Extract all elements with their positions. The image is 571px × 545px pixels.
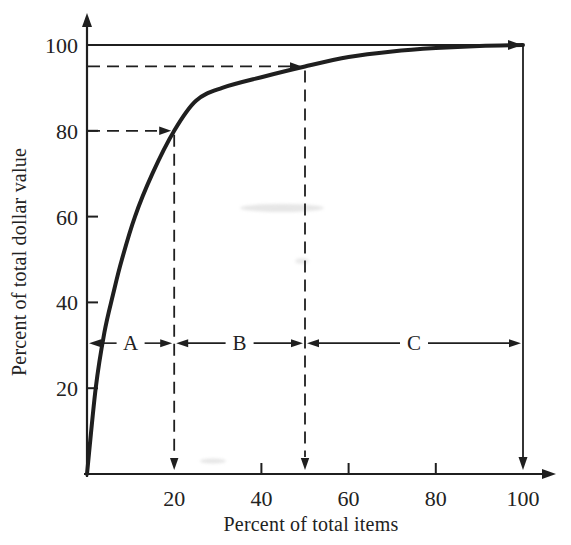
y-tick-label-60: 60 (56, 205, 78, 230)
x-tick-label-20: 20 (163, 486, 185, 511)
arrow-left-icon (307, 339, 319, 347)
arrow-down-icon (170, 458, 178, 470)
arrow-left-icon (176, 339, 188, 347)
y-axis-title: Percent of total dollar value (8, 148, 30, 376)
scan-smudge (240, 204, 324, 212)
x-tick-label-40: 40 (250, 486, 272, 511)
abc-analysis-chart: 2040608010020406080100ABC Percent of tot… (0, 0, 571, 545)
arrow-down-icon (519, 457, 528, 470)
scan-smudge (295, 258, 309, 264)
arrow-right-icon (160, 339, 172, 347)
arrow-right-icon (542, 469, 556, 479)
scan-smudge (200, 459, 226, 464)
arrow-right-icon (291, 339, 303, 347)
arrow-left-icon (89, 339, 101, 347)
abc-analysis-figure: 2040608010020406080100ABC Percent of tot… (0, 0, 571, 545)
region-label-A: A (123, 331, 139, 355)
y-tick-label-100: 100 (45, 33, 78, 58)
region-label-C: C (407, 331, 421, 355)
arrow-up-icon (82, 13, 92, 27)
x-tick-label-60: 60 (338, 486, 360, 511)
arrow-right-icon (509, 339, 521, 347)
x-tick-label-80: 80 (425, 486, 447, 511)
y-tick-label-40: 40 (56, 290, 78, 315)
x-axis-title: Percent of total items (224, 513, 399, 535)
y-tick-label-80: 80 (56, 119, 78, 144)
x-tick-label-100: 100 (507, 486, 540, 511)
arrow-down-icon (301, 458, 309, 470)
y-tick-label-20: 20 (56, 376, 78, 401)
region-label-B: B (233, 331, 247, 355)
arrow-right-icon (159, 127, 171, 135)
